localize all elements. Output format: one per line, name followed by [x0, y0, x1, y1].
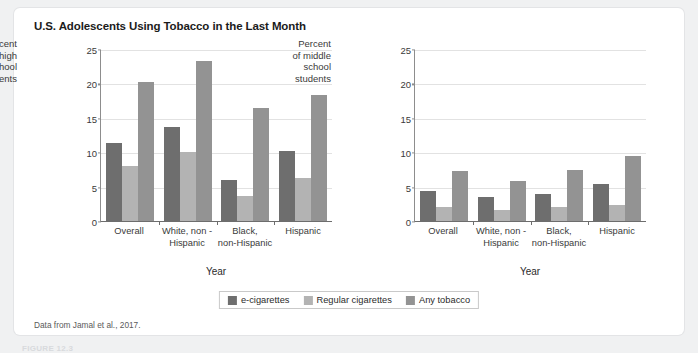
- x-axis-category-label: White, non -Hispanic: [158, 226, 216, 249]
- bar: [237, 196, 253, 221]
- x-axis-title-high-school: Year: [100, 266, 332, 277]
- y-axis-tick-label: 10: [400, 148, 411, 159]
- y-axis-tick-label: 20: [400, 79, 411, 90]
- legend-item: Any tobacco: [406, 295, 470, 305]
- figure-caption: FIGURE 12.3: [22, 344, 73, 353]
- legend-swatch: [228, 296, 237, 305]
- x-axis-category-label: Overall: [100, 226, 158, 249]
- bar: [106, 143, 122, 221]
- x-axis-tickmark: [217, 221, 218, 225]
- x-axis-category-line: White, non -: [158, 226, 216, 238]
- bar: [436, 207, 452, 221]
- y-axis-title-line: students: [259, 73, 331, 85]
- chart-panel-middle-school: Percentof middleschoolstudents 051015202…: [336, 38, 656, 268]
- y-axis-title-line: students: [0, 73, 17, 85]
- bar-group: [473, 50, 531, 221]
- y-axis-tickmark: [412, 221, 415, 222]
- y-axis-title-line: of middle: [259, 50, 331, 62]
- bar: [221, 180, 237, 221]
- x-axis-category-line: Overall: [414, 226, 472, 238]
- figure-container: U.S. Adolescents Using Tobacco in the La…: [0, 0, 698, 353]
- x-axis-category-label: Overall: [414, 226, 472, 249]
- x-axis-category-line: Hispanic: [158, 238, 216, 250]
- x-axis-category-line: Overall: [100, 226, 158, 238]
- y-axis-tick-label: 0: [406, 217, 411, 228]
- bar: [295, 178, 311, 221]
- bar-groups-middle-school: [415, 50, 646, 221]
- bar: [164, 127, 180, 221]
- x-axis-category-line: Hispanic: [274, 226, 332, 238]
- y-axis-title-line: of high: [0, 50, 17, 62]
- bar-group: [531, 50, 589, 221]
- bar: [567, 170, 583, 221]
- y-axis-title-line: Percent: [0, 38, 17, 50]
- y-axis-tick-label: 5: [92, 182, 97, 193]
- bar: [180, 152, 196, 221]
- bar: [625, 156, 641, 221]
- x-axis-category-label: Black,non-Hispanic: [530, 226, 588, 249]
- legend-item: e-cigarettes: [228, 295, 290, 305]
- legend-label: Regular cigarettes: [316, 295, 391, 305]
- legend-swatch: [406, 296, 415, 305]
- bar: [510, 181, 526, 221]
- chart-legend: e-cigarettesRegular cigarettesAny tobacc…: [219, 291, 479, 309]
- x-axis-category-line: Hispanic: [588, 226, 646, 238]
- y-axis-title-line: school: [0, 61, 17, 73]
- x-axis-category-line: Hispanic: [472, 238, 530, 250]
- x-axis-category-label: White, non -Hispanic: [472, 226, 530, 249]
- bar: [420, 191, 436, 221]
- legend-label: e-cigarettes: [241, 295, 290, 305]
- bar: [478, 197, 494, 221]
- x-axis-category-label: Hispanic: [274, 226, 332, 249]
- x-axis-category-label: Black,non-Hispanic: [216, 226, 274, 249]
- y-axis-tick-label: 25: [400, 45, 411, 56]
- x-axis-category-label: Hispanic: [588, 226, 646, 249]
- x-axis-category-line: non-Hispanic: [216, 238, 274, 250]
- plot-area-middle-school: 0510152025: [414, 50, 646, 222]
- x-axis-category-line: non-Hispanic: [530, 238, 588, 250]
- x-axis-category-line: White, non -: [472, 226, 530, 238]
- figure-card: U.S. Adolescents Using Tobacco in the La…: [14, 8, 684, 335]
- y-axis-tick-label: 10: [86, 148, 97, 159]
- x-axis-category-line: Black,: [530, 226, 588, 238]
- bar: [311, 95, 327, 221]
- bar-group: [159, 50, 217, 221]
- x-axis-category-line: Black,: [216, 226, 274, 238]
- x-axis-tickmark: [588, 221, 589, 225]
- y-axis-title-high-school: Percentof highschoolstudents: [0, 38, 17, 84]
- legend-swatch: [303, 296, 312, 305]
- bar: [494, 210, 510, 221]
- bar: [138, 82, 154, 221]
- y-axis-tickmark: [98, 221, 101, 222]
- x-axis-tickmark: [473, 221, 474, 225]
- legend-item: Regular cigarettes: [303, 295, 391, 305]
- x-axis-labels-middle-school: OverallWhite, non -HispanicBlack,non-His…: [414, 226, 646, 249]
- y-axis-title-line: school: [259, 61, 331, 73]
- bar-group: [588, 50, 646, 221]
- bar-group: [415, 50, 473, 221]
- bar: [535, 194, 551, 221]
- bar: [196, 61, 212, 221]
- y-axis-title-line: Percent: [259, 38, 331, 50]
- x-axis-title-middle-school: Year: [414, 266, 646, 277]
- bar: [279, 151, 295, 221]
- bar: [253, 108, 269, 221]
- x-axis-tickmark: [159, 221, 160, 225]
- y-axis-title-middle-school: Percentof middleschoolstudents: [259, 38, 331, 84]
- x-axis-tickmark: [274, 221, 275, 225]
- y-axis-tick-label: 5: [406, 182, 411, 193]
- x-axis-labels-high-school: OverallWhite, non -HispanicBlack,non-His…: [100, 226, 332, 249]
- x-axis-tickmark: [531, 221, 532, 225]
- bar: [593, 184, 609, 221]
- legend-label: Any tobacco: [419, 295, 470, 305]
- y-axis-tick-label: 25: [86, 45, 97, 56]
- bar: [122, 166, 138, 221]
- y-axis-tick-label: 0: [92, 217, 97, 228]
- bar: [452, 171, 468, 221]
- y-axis-tick-label: 20: [86, 79, 97, 90]
- bar-group: [101, 50, 159, 221]
- y-axis-tick-label: 15: [400, 113, 411, 124]
- bar: [609, 205, 625, 221]
- bar: [551, 207, 567, 221]
- source-note: Data from Jamal et al., 2017.: [34, 320, 141, 330]
